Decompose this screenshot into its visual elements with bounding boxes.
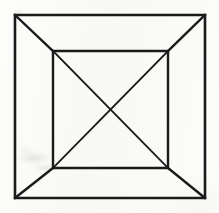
corner-diagonal-bottom-right xyxy=(168,168,205,198)
figure-canvas xyxy=(0,0,219,213)
line-drawing xyxy=(0,0,219,213)
corner-diagonal-bottom-left xyxy=(15,168,53,198)
corner-diagonal-top-left xyxy=(15,15,53,51)
corner-diagonal-top-right xyxy=(168,15,205,51)
